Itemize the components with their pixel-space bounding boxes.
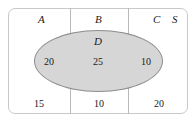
region-value-b-not-d: 10 [88,99,110,109]
set-label-b: B [95,14,102,25]
region-value-c-and-d: 10 [135,57,157,67]
set-label-a: A [38,14,45,25]
region-value-b-and-d: 25 [87,57,109,67]
set-label-d: D [94,36,102,47]
venn-diagram-figure: A B C S D 20 25 10 15 10 20 [0,0,196,122]
set-label-universe-s: S [172,14,178,25]
region-value-c-not-d: 20 [148,99,170,109]
set-label-c: C [153,14,160,25]
region-value-a-not-d: 15 [28,99,50,109]
region-value-a-and-d: 20 [38,57,60,67]
